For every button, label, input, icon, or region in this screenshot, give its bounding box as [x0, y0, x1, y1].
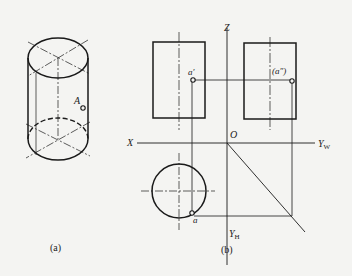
- miter-line: [227, 143, 305, 232]
- origin-label: O: [230, 129, 237, 140]
- figure-b-projection: [137, 28, 315, 265]
- point-a-double-prime-label: (a″): [272, 66, 286, 76]
- point-a-prime-label: a′: [188, 67, 196, 77]
- yh-axis-label: YH: [229, 228, 240, 241]
- orthographic-projection-drawing: A (a) Z X O YW YH a′ (a″) a (b): [0, 0, 352, 276]
- figure-a-cylinder: [26, 38, 90, 160]
- point-A-marker: [81, 106, 85, 110]
- figure-a-caption: (a): [50, 242, 61, 254]
- z-axis-label: Z: [224, 22, 230, 33]
- point-a-prime-marker: [191, 78, 195, 82]
- yw-axis-label: YW: [318, 138, 331, 151]
- point-a-label: a: [193, 215, 198, 225]
- x-axis-label: X: [126, 137, 134, 148]
- point-A-label: A: [73, 95, 81, 106]
- figure-b-caption: (b): [221, 244, 233, 256]
- point-a-double-prime-marker: [290, 79, 294, 83]
